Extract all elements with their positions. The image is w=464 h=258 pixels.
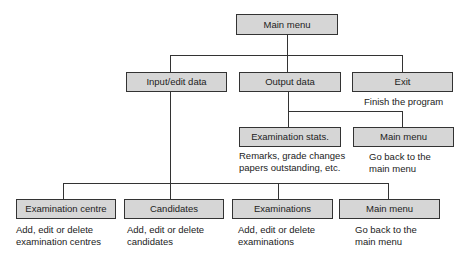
connector-to-input-mainmenu — [388, 183, 389, 199]
connector-to-output-mainmenu — [402, 111, 403, 127]
connector-to-candidates — [170, 183, 171, 199]
examinations-description-line1: Add, edit or delete — [238, 224, 315, 236]
connector-root-down — [287, 34, 288, 55]
connector-to-output — [287, 55, 288, 72]
connector-output-down — [288, 92, 289, 127]
connector-output-bar — [288, 111, 403, 112]
examination-centre-description-line1: Add, edit or delete — [16, 224, 93, 236]
connector-input-down — [170, 92, 171, 183]
candidates-description-line1: Add, edit or delete — [127, 224, 204, 236]
main-menu-root-box[interactable]: Main menu — [236, 14, 338, 35]
exit-box[interactable]: Exit — [352, 72, 453, 92]
input-main-menu-description-line2: main menu — [355, 236, 402, 248]
candidates-description-line2: candidates — [127, 236, 173, 248]
candidates-box[interactable]: Candidates — [124, 199, 224, 219]
connector-to-examinations — [278, 183, 279, 199]
output-data-box[interactable]: Output data — [239, 72, 341, 92]
examination-stats-description-line2: papers outstanding, etc. — [239, 162, 340, 174]
examination-stats-box[interactable]: Examination stats. — [239, 127, 341, 147]
input-main-menu-description-line1: Go back to the — [355, 224, 417, 236]
input-main-menu-box[interactable]: Main menu — [339, 199, 440, 219]
examination-centre-description-line2: examination centres — [16, 236, 101, 248]
output-main-menu-description-line1: Go back to the — [369, 151, 431, 163]
examinations-box[interactable]: Examinations — [232, 199, 333, 219]
examinations-description-line2: examinations — [238, 236, 294, 248]
input-edit-data-box[interactable]: Input/edit data — [126, 72, 227, 92]
connector-to-exit — [402, 55, 403, 72]
connector-input-bar — [63, 183, 389, 184]
exit-description: Finish the program — [364, 96, 443, 108]
examination-stats-description-line1: Remarks, grade changes — [239, 150, 345, 162]
output-main-menu-box[interactable]: Main menu — [353, 127, 454, 147]
connector-to-input — [170, 55, 171, 72]
connector-to-exam-centre — [63, 183, 64, 199]
examination-centre-box[interactable]: Examination centre — [16, 199, 116, 219]
output-main-menu-description-line2: main menu — [369, 163, 416, 175]
